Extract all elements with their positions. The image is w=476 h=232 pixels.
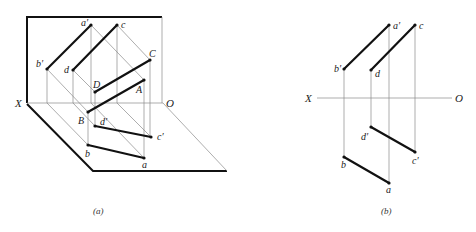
segment-d-prime-c-prime: [95, 126, 151, 137]
label-d-prime-a: d′: [100, 116, 108, 127]
label-x-b: X: [304, 92, 313, 104]
point-D: [93, 90, 96, 93]
segment-b-a: [88, 145, 144, 158]
projection-diagram: X O a′ c b′ d C A D B d′ c′ b a (a): [0, 0, 476, 232]
segment-d-c-b: [371, 25, 415, 70]
label-d-prime-b: d′: [361, 131, 369, 142]
point-c-prime: [149, 135, 152, 138]
point-b: [86, 143, 89, 146]
point-b-prime: [45, 67, 48, 70]
point-c-prime-b: [413, 150, 416, 153]
point-d-prime: [93, 124, 96, 127]
segment-d-prime-c-prime-b: [371, 127, 415, 152]
label-a-a: a: [142, 159, 147, 170]
figure-a: X O a′ c b′ d C A D B d′ c′ b a (a): [14, 17, 227, 216]
horizontal-plane-right-edge: [163, 103, 227, 171]
label-a-prime-a: a′: [81, 17, 89, 28]
point-B: [86, 110, 89, 113]
label-b-a: b: [85, 148, 90, 159]
caption-a: (a): [93, 206, 104, 216]
label-b-prime-b: b′: [334, 63, 342, 74]
segment-b-prime-a-prime: [47, 25, 91, 69]
label-C-a: C: [149, 48, 156, 59]
label-b-b: b: [341, 159, 346, 170]
label-o-b: O: [455, 92, 463, 104]
label-d-a: d: [64, 64, 70, 75]
label-c-b: c: [419, 20, 424, 31]
point-A: [142, 78, 145, 81]
label-a-b: a: [386, 184, 391, 195]
label-b-prime-a: b′: [36, 58, 44, 69]
projector-d-D: [73, 70, 95, 92]
point-c-b: [413, 23, 416, 26]
label-c-prime-b: c′: [412, 155, 419, 166]
label-D-a: D: [92, 79, 101, 90]
projector-b-prime-B: [47, 69, 88, 112]
projector-a-prime-A: [91, 25, 144, 80]
label-a-prime-b: a′: [393, 20, 401, 31]
figure-b: X O a′ c b′ d d′ c′ b a (b): [304, 20, 463, 216]
label-d-b: d: [375, 68, 381, 79]
point-b-prime-b: [342, 67, 345, 70]
segment-d-c: [73, 25, 117, 70]
point-a-prime-b: [387, 23, 390, 26]
point-d-b: [369, 68, 372, 71]
horizontal-plane-frame: [27, 104, 227, 171]
projector-c-C: [117, 25, 150, 60]
segment-b-a-b: [344, 157, 389, 183]
point-d: [71, 68, 74, 71]
label-B-a: B: [78, 115, 84, 126]
label-A-a: A: [135, 84, 143, 95]
label-c-a: c: [121, 19, 126, 30]
caption-b: (b): [381, 206, 392, 216]
label-c-prime-a: c′: [157, 131, 164, 142]
point-c: [115, 23, 118, 26]
label-x-a: X: [14, 97, 23, 109]
point-a-prime: [89, 23, 92, 26]
segment-b-prime-a-prime-b: [344, 25, 389, 69]
label-o-a: O: [166, 97, 174, 109]
point-d-prime-b: [369, 125, 372, 128]
